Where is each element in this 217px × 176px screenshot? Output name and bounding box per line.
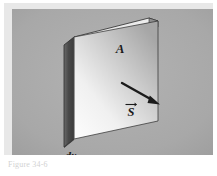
figure-caption: Figure 34-6 bbox=[8, 160, 158, 170]
label-vector: S bbox=[128, 105, 135, 119]
figure-container: A S dx Figure 34-6 bbox=[0, 0, 217, 176]
slab-diagram: A S dx bbox=[12, 9, 213, 155]
label-area: A bbox=[115, 41, 125, 56]
figure-frame: A S dx bbox=[4, 3, 213, 155]
slab-side-face bbox=[64, 37, 74, 147]
illustration-panel: A S dx bbox=[12, 9, 213, 155]
label-thickness: dx bbox=[66, 149, 78, 155]
slab-front-face bbox=[74, 21, 158, 139]
